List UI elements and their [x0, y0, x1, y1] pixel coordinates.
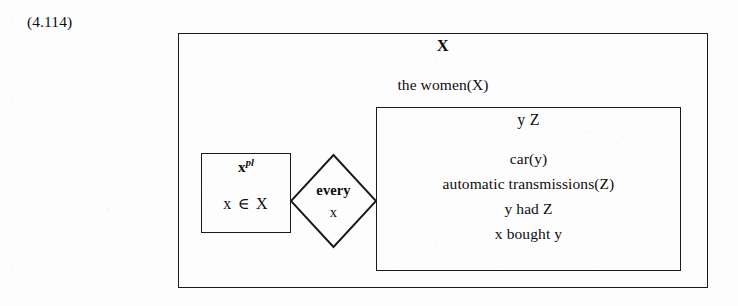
consequent-conditions-list: car(y) automatic transmissions(Z) y had … — [377, 146, 680, 246]
consequent-condition-line: x bought y — [377, 221, 680, 246]
consequent-universe-label: y Z — [377, 111, 680, 129]
diamond-variable-label: x — [330, 201, 337, 223]
outer-condition-label: the women(X) — [179, 76, 707, 94]
consequent-condition-line: car(y) — [377, 146, 680, 171]
outer-drs-box: X the women(X) xpl x ∈ X every x y Z car… — [178, 33, 708, 288]
consequent-condition-line: y had Z — [377, 196, 680, 221]
equation-number: (4.114) — [27, 13, 72, 31]
antecedent-universe-label: xpl — [202, 157, 290, 176]
antecedent-universe-base: x — [238, 159, 246, 175]
consequent-drs-box: y Z car(y) automatic transmissions(Z) y … — [376, 107, 681, 271]
outer-universe-label: X — [179, 36, 707, 56]
consequent-condition-line: automatic transmissions(Z) — [377, 171, 680, 196]
antecedent-drs-box: xpl x ∈ X — [201, 153, 291, 233]
diamond-quantifier-label: every — [316, 179, 350, 201]
antecedent-condition-label: x ∈ X — [202, 194, 290, 213]
diamond-text-group: every x — [289, 153, 378, 249]
quantifier-diamond: every x — [289, 153, 378, 249]
antecedent-universe-superscript: pl — [246, 157, 254, 168]
